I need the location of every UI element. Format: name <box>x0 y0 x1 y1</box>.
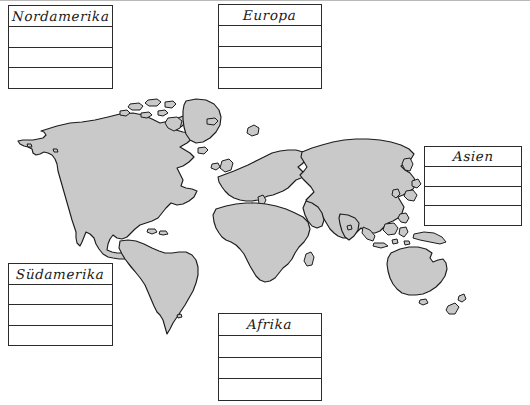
caribbean-island-1 <box>147 229 157 234</box>
answer-box-suedamerika-row-3[interactable] <box>9 326 112 346</box>
answer-box-nordamerika-title: Nordamerika <box>11 8 109 24</box>
answer-box-suedamerika-header: Südamerika <box>9 264 112 285</box>
answer-box-suedamerika-title: Südamerika <box>16 266 105 282</box>
answer-box-nordamerika-row-2[interactable] <box>9 48 112 69</box>
british-isles <box>220 159 233 172</box>
answer-box-europa-row-3[interactable] <box>219 68 321 88</box>
java-island <box>373 243 388 248</box>
answer-box-suedamerika[interactable]: Südamerika <box>8 263 113 346</box>
answer-box-europa-row-1[interactable] <box>219 26 321 47</box>
answer-box-europa-row-2[interactable] <box>219 47 321 68</box>
japan-island-north <box>412 179 421 188</box>
borneo-island <box>383 223 398 235</box>
sri-lanka-island <box>347 225 352 230</box>
answer-box-afrika-header: Afrika <box>219 314 321 336</box>
answer-box-europa-header: Europa <box>219 5 321 26</box>
answer-box-afrika-row-3[interactable] <box>219 379 321 400</box>
alaska-islet-2 <box>53 149 58 152</box>
answer-box-asien-header: Asien <box>425 147 521 167</box>
madagascar-island <box>304 252 314 266</box>
falkland-islands <box>177 314 182 318</box>
answer-box-asien-title: Asien <box>452 148 493 164</box>
arctic-island-1 <box>128 103 143 110</box>
answer-box-afrika-row-1[interactable] <box>219 336 321 358</box>
answer-box-suedamerika-row-1[interactable] <box>9 285 112 306</box>
new-zealand-south-island <box>446 303 459 314</box>
answer-box-afrika[interactable]: Afrika <box>218 313 322 401</box>
answer-box-asien[interactable]: Asien <box>424 146 522 226</box>
europe-landmass <box>218 150 309 201</box>
answer-box-afrika-title: Afrika <box>247 316 293 332</box>
ireland-island <box>211 163 220 170</box>
answer-box-asien-row-2[interactable] <box>425 187 521 207</box>
answer-box-nordamerika-header: Nordamerika <box>9 6 112 27</box>
answer-box-nordamerika-row-1[interactable] <box>9 27 112 48</box>
sulawesi-island <box>399 227 408 237</box>
australia-landmass <box>387 247 447 295</box>
answer-box-asien-row-3[interactable] <box>425 206 521 225</box>
north-america-landmass <box>18 108 197 259</box>
new-guinea-island <box>413 232 446 244</box>
answer-box-europa-title: Europa <box>243 7 297 23</box>
answer-box-asien-row-1[interactable] <box>425 167 521 187</box>
south-america-landmass <box>119 240 198 334</box>
newfoundland <box>198 147 208 154</box>
arctic-island-2 <box>145 99 161 106</box>
indonesia-islet-1 <box>392 239 398 244</box>
arctic-island-3 <box>165 101 176 108</box>
japan-island-main <box>404 190 417 201</box>
indonesia-islet-2 <box>404 241 410 245</box>
answer-box-afrika-row-2[interactable] <box>219 358 321 380</box>
scandinavia-islet <box>247 125 259 136</box>
arctic-island-5 <box>141 112 152 118</box>
worksheet-canvas: Nordamerika Europa Asien <box>0 0 530 405</box>
tasmania-island <box>419 299 428 305</box>
africa-landmass <box>213 203 310 282</box>
alaska-islet-1 <box>27 144 32 147</box>
new-zealand-north-island <box>458 294 466 302</box>
answer-box-nordamerika-row-3[interactable] <box>9 68 112 88</box>
arctic-island-6 <box>158 110 168 116</box>
answer-box-nordamerika[interactable]: Nordamerika <box>8 5 113 89</box>
answer-box-europa[interactable]: Europa <box>218 4 322 89</box>
answer-box-suedamerika-row-2[interactable] <box>9 305 112 326</box>
philippines-island <box>398 213 409 223</box>
caribbean-island-2 <box>159 231 168 235</box>
